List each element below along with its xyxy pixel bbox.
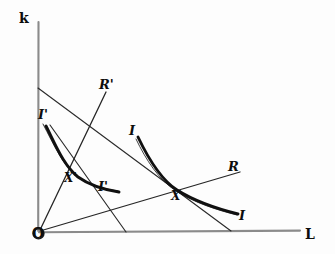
- ray-label-R: R: [228, 160, 239, 173]
- point-label-X: X: [171, 190, 180, 202]
- origin-label: O: [32, 226, 44, 240]
- ray-R-prime: [40, 92, 106, 230]
- isocost-line-outer: [38, 88, 231, 231]
- isoquant-label-I-top: I: [129, 124, 135, 137]
- axis-label-vertical: k: [19, 11, 29, 25]
- isoquant-label-I-prime-top: I': [38, 108, 48, 121]
- axis-label-horizontal: L: [305, 227, 315, 241]
- hand-drawn-economics-diagram: k L O R R' I I I' I' X X': [0, 0, 335, 254]
- isoquant-I: [138, 137, 238, 214]
- isoquant-label-I-bottom: I: [239, 209, 245, 222]
- isoquant-label-I-prime-bottom: I': [98, 180, 108, 193]
- diagram-canvas: [0, 0, 335, 254]
- point-label-X-prime: X': [64, 172, 77, 184]
- isocost-line-inner: [50, 125, 126, 232]
- horizontal-axis: [39, 231, 300, 233]
- ray-label-R-prime: R': [99, 78, 114, 91]
